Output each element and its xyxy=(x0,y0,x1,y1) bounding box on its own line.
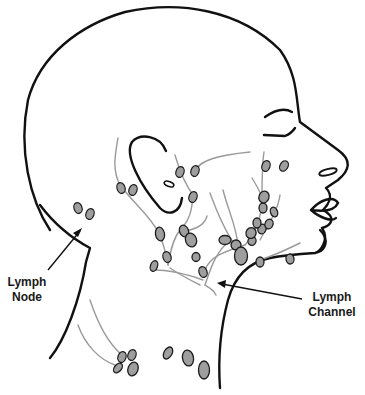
head-outline xyxy=(24,7,347,388)
lymph-node-label-line1: Lymph xyxy=(4,275,50,290)
lymph-node-arrow xyxy=(48,228,82,270)
lymph-channels xyxy=(78,138,300,365)
lymph-channel-label: Lymph Channel xyxy=(302,290,362,320)
nostril xyxy=(319,167,338,177)
eyebrow xyxy=(265,110,292,117)
lymph-node-label-line2: Node xyxy=(4,290,50,305)
closed-eye xyxy=(264,128,295,136)
head-neck-diagram xyxy=(0,0,365,395)
lymph-channel-label-line2: Channel xyxy=(302,305,362,320)
lymph-channel-label-line1: Lymph xyxy=(302,290,362,305)
ear xyxy=(130,137,182,213)
lymph-nodes xyxy=(72,159,294,379)
lymph-node-label: Lymph Node xyxy=(4,275,50,305)
ear-canal xyxy=(163,180,174,188)
